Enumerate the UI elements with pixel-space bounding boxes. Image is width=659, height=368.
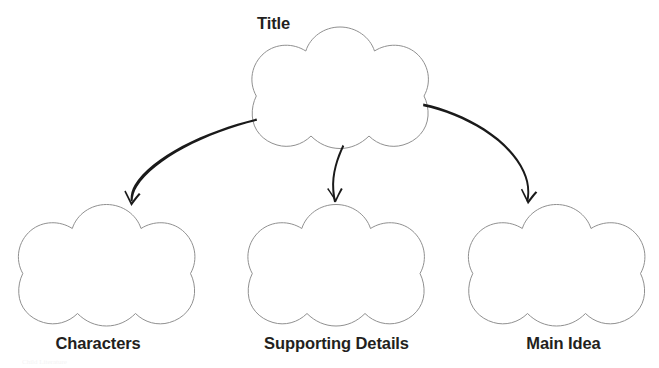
graphic-organizer-worksheet: Title Characters Supporting Details Main…: [0, 0, 659, 368]
node-label-title: Title: [257, 15, 290, 32]
node-shape-supporting-details[interactable]: [248, 205, 425, 327]
node-label-main-idea: Main Idea: [511, 335, 616, 352]
node-shape-title[interactable]: [252, 27, 429, 149]
arrow-title-to-supporting-details: [327, 145, 344, 203]
node-shape-characters[interactable]: [18, 205, 195, 327]
page-bottom-faint-artifact-text: Child Literature: [22, 358, 452, 366]
node-label-characters: Characters: [44, 335, 152, 352]
diagram-canvas: [0, 0, 659, 368]
node-label-supporting-details: Supporting Details: [260, 335, 413, 352]
arrow-title-to-characters: [124, 119, 257, 206]
node-shape-main-idea[interactable]: [468, 205, 645, 327]
arrow-title-to-main-idea: [423, 104, 537, 205]
